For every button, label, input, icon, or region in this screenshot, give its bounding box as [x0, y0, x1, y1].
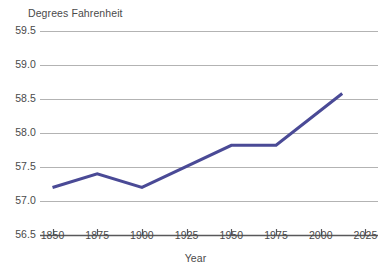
temperature-line-chart: Degrees Fahrenheit 56.557.057.558.058.55… — [0, 0, 391, 272]
x-tick-label: 1950 — [208, 229, 254, 241]
x-tick-label: 1850 — [30, 229, 76, 241]
y-tick-label: 57.5 — [4, 160, 36, 172]
y-tick-label: 59.0 — [4, 58, 36, 70]
y-tick-label: 58.5 — [4, 92, 36, 104]
y-tick-label: 57.0 — [4, 194, 36, 206]
y-tick-label: 58.0 — [4, 126, 36, 138]
x-tick-label: 2000 — [298, 229, 344, 241]
x-axis-title: Year — [0, 252, 391, 264]
x-tick-label: 1925 — [164, 229, 210, 241]
data-series-line — [53, 94, 343, 188]
x-tick-label: 1975 — [253, 229, 299, 241]
x-tick-label: 1900 — [119, 229, 165, 241]
x-tick-label: 2025 — [342, 229, 388, 241]
y-tick-label: 59.5 — [4, 24, 36, 36]
x-tick-label: 1875 — [74, 229, 120, 241]
